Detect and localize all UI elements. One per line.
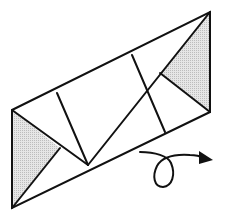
left-flap-shaded — [12, 110, 60, 208]
right-inner-fold — [132, 55, 165, 132]
turn-over-arrow-icon — [140, 151, 213, 187]
origami-diagram — [0, 0, 226, 214]
paper-outline — [12, 12, 210, 208]
right-flap-shaded — [160, 12, 210, 112]
